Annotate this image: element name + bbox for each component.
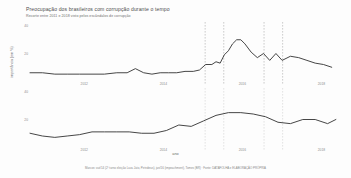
source-note: Marcos: out/14 (2º turno eleição Lava Ja…	[0, 166, 351, 170]
plot-area-top: 20402012201420162018	[30, 26, 340, 81]
chart-subtitle: Recorte entre 2011 e 2018 visto pelos es…	[26, 14, 131, 18]
panel-outros-temas: 20402012201420162018	[30, 92, 340, 147]
chart-canvas: Preocupação dos brasileiros com corrupçã…	[0, 0, 351, 178]
panel-corrupcao: 20402012201420162018	[30, 26, 340, 81]
y-tick-label: 40	[24, 90, 28, 94]
y-tick-label: 20	[24, 118, 28, 122]
line-chart-bottom	[30, 92, 340, 147]
x-tick-label: 2018	[318, 82, 325, 86]
line-chart-top	[30, 26, 340, 81]
plot-area-bottom: 20402012201420162018	[30, 92, 340, 147]
y-axis-label: importância (em %)	[10, 32, 14, 92]
x-tick-label: 2012	[81, 82, 88, 86]
x-axis-label: ano	[0, 152, 351, 156]
y-tick-label: 40	[24, 24, 28, 28]
y-tick-label: 20	[24, 52, 28, 56]
x-tick-label: 2014	[160, 82, 167, 86]
x-tick-label: 2016	[239, 82, 246, 86]
chart-title: Preocupação dos brasileiros com corrupçã…	[26, 6, 170, 12]
